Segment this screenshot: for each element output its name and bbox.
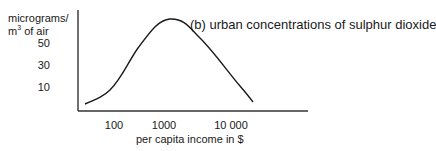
y-axis-title: micrograms/ m3 of air [8,12,69,38]
y-tick-50: 50 [18,37,50,49]
y-tick-30: 30 [18,59,50,71]
x-tick-100: 100 [105,119,123,131]
x-tick-10000: 10 000 [214,119,248,131]
y-unit-m: m [8,25,17,37]
y-tick-10: 10 [18,81,50,93]
x-axis-title: per capita income in $ [136,133,244,145]
x-tick-1000: 1000 [152,119,176,131]
chart-annotation: (b) urban concentrations of sulphur diox… [190,17,436,32]
y-unit-rest: of air [21,25,49,37]
